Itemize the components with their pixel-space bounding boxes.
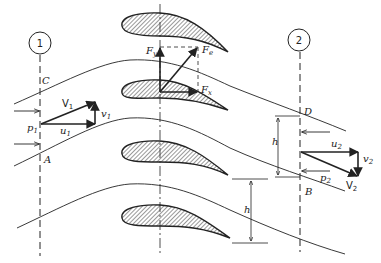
V2-label: V2 <box>346 180 357 193</box>
point-b-label: B <box>304 186 312 197</box>
Fe-label: Fe <box>201 44 213 57</box>
point-a-label: A <box>43 154 51 165</box>
blade-3 <box>122 141 228 175</box>
blade-2 <box>122 80 228 110</box>
u1-label: u1 <box>60 125 71 138</box>
V1-label: V1 <box>62 98 73 111</box>
Fy-label: Fy <box>145 45 158 58</box>
station-2-label: 2 <box>296 35 302 46</box>
spacing-h2-label: h <box>244 204 250 215</box>
point-c-label: C <box>42 75 50 86</box>
u2-label: u2 <box>331 138 342 151</box>
spacing-h1-label: h <box>272 136 278 147</box>
outlet-velocity-triangle <box>301 152 358 176</box>
v2-label: v2 <box>363 153 374 166</box>
point-d-label: D <box>303 106 312 117</box>
cascade-diagram: 1 2 C A D B p1 V1 v1 u1 F <box>0 0 381 263</box>
station-2-marker: 2 <box>288 29 310 51</box>
station-1-marker: 1 <box>29 32 51 54</box>
station-1-label: 1 <box>37 38 43 49</box>
blade-1 <box>122 13 228 52</box>
v1-label: v1 <box>101 108 111 121</box>
inlet-pressure-label: p1 <box>27 122 38 135</box>
blade-4 <box>122 205 230 238</box>
V2-vector <box>301 152 357 176</box>
